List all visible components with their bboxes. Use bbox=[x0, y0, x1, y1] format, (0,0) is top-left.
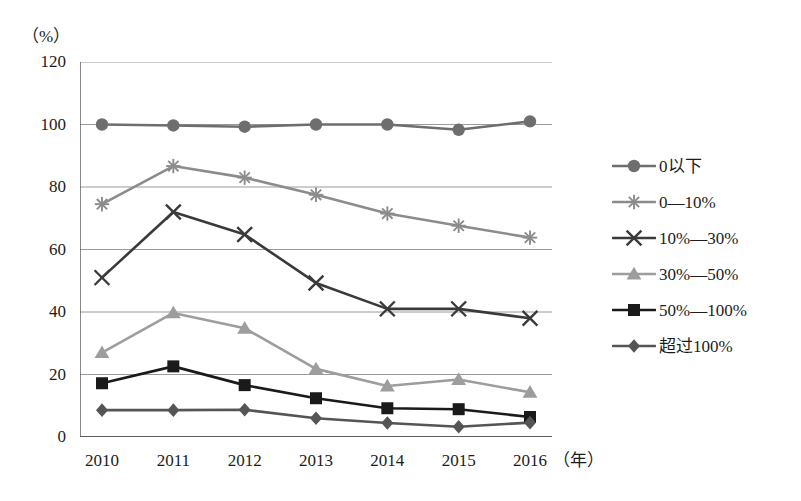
y-axis-tick-label: 0 bbox=[8, 428, 66, 445]
legend-marker-asterisk-icon bbox=[612, 192, 656, 212]
data-point-marker bbox=[166, 205, 181, 220]
data-point-marker bbox=[96, 377, 108, 389]
data-point-marker bbox=[309, 188, 323, 202]
data-point-marker bbox=[239, 379, 251, 391]
legend-item-4[interactable]: 50%—100% bbox=[612, 292, 797, 328]
data-point-marker bbox=[166, 159, 180, 173]
legend-item-5[interactable]: 超过100% bbox=[612, 328, 797, 364]
x-axis-tick-label: 2014 bbox=[352, 452, 422, 469]
data-point-marker bbox=[96, 118, 108, 130]
y-axis-tick-label: 80 bbox=[8, 178, 66, 195]
y-axis-tick-label: 120 bbox=[8, 53, 66, 70]
y-axis-tick-label: 20 bbox=[8, 366, 66, 383]
legend-label-3: 30%—50% bbox=[659, 266, 738, 283]
series-line-3 bbox=[102, 313, 530, 392]
data-point-marker bbox=[381, 118, 393, 130]
data-point-marker bbox=[309, 362, 324, 375]
y-axis-tick-label: 40 bbox=[8, 303, 66, 320]
legend-label-2: 10%—30% bbox=[659, 230, 738, 247]
data-point-marker bbox=[239, 403, 251, 417]
data-point-marker bbox=[237, 227, 252, 242]
y-axis-tick-label: 100 bbox=[8, 116, 66, 133]
data-point-marker bbox=[238, 120, 250, 132]
legend-label-5: 超过100% bbox=[659, 338, 733, 355]
data-point-marker bbox=[96, 403, 108, 417]
x-axis-tick-label: 2010 bbox=[67, 452, 137, 469]
chart-root: （%） 020406080100120 20102011201220132014… bbox=[0, 0, 801, 501]
data-point-marker bbox=[381, 416, 393, 430]
data-point-marker bbox=[453, 420, 465, 434]
data-point-marker bbox=[523, 230, 537, 244]
data-point-marker bbox=[310, 392, 322, 404]
x-axis-tick-label: 2011 bbox=[138, 452, 208, 469]
legend-label-0: 0以下 bbox=[659, 158, 702, 175]
data-point-marker bbox=[310, 118, 322, 130]
y-axis-unit-label: （%） bbox=[22, 22, 70, 47]
data-point-marker bbox=[452, 124, 464, 136]
legend-item-1[interactable]: 0—10% bbox=[612, 184, 797, 220]
x-axis-unit-label: （年） bbox=[553, 452, 604, 469]
chart-plot-svg bbox=[80, 62, 552, 437]
x-axis-tick-label: 2013 bbox=[281, 452, 351, 469]
data-point-marker bbox=[627, 195, 641, 209]
data-point-marker bbox=[524, 115, 536, 127]
data-point-marker bbox=[95, 345, 110, 358]
legend-marker-diamond-icon bbox=[612, 336, 656, 356]
data-point-marker bbox=[451, 219, 465, 233]
data-point-marker bbox=[628, 339, 640, 353]
legend-marker-circle-icon bbox=[612, 156, 656, 176]
data-point-marker bbox=[237, 170, 251, 184]
legend-marker-square-icon bbox=[612, 300, 656, 320]
data-point-marker bbox=[453, 403, 465, 415]
data-point-marker bbox=[167, 403, 179, 417]
data-point-marker bbox=[380, 206, 394, 220]
y-axis-tick-label: 60 bbox=[8, 241, 66, 258]
x-axis-tick-label: 2012 bbox=[210, 452, 280, 469]
legend-marker-cross-x-icon bbox=[612, 228, 656, 248]
data-point-marker bbox=[628, 160, 640, 172]
chart-legend: 0以下0—10%10%—30%30%—50%50%—100%超过100% bbox=[612, 148, 797, 364]
legend-label-4: 50%—100% bbox=[659, 302, 747, 319]
data-point-marker bbox=[167, 360, 179, 372]
legend-marker-triangle-icon bbox=[612, 264, 656, 284]
data-point-marker bbox=[167, 119, 179, 131]
data-point-marker bbox=[95, 270, 110, 285]
data-point-marker bbox=[95, 197, 109, 211]
legend-item-3[interactable]: 30%—50% bbox=[612, 256, 797, 292]
data-point-marker bbox=[310, 411, 322, 425]
data-point-marker bbox=[309, 276, 324, 291]
x-axis-tick-label: 2015 bbox=[424, 452, 494, 469]
legend-item-2[interactable]: 10%—30% bbox=[612, 220, 797, 256]
data-point-marker bbox=[381, 402, 393, 414]
legend-item-0[interactable]: 0以下 bbox=[612, 148, 797, 184]
data-point-marker bbox=[628, 304, 640, 316]
plot-area bbox=[80, 62, 552, 437]
legend-label-1: 0—10% bbox=[659, 194, 716, 211]
